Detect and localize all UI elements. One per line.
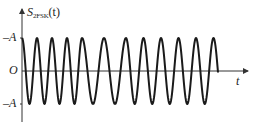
amplitude-bottom-label: –A — [3, 97, 16, 109]
waveform-plot — [0, 0, 253, 135]
2fsk-waveform-figure: S2FSK(t) –A O –A t — [0, 0, 253, 135]
amplitude-top-label: –A — [3, 31, 16, 43]
y-axis-label: S2FSK(t) — [27, 6, 60, 20]
origin-label: O — [9, 64, 18, 76]
x-axis-label: t — [236, 75, 239, 87]
